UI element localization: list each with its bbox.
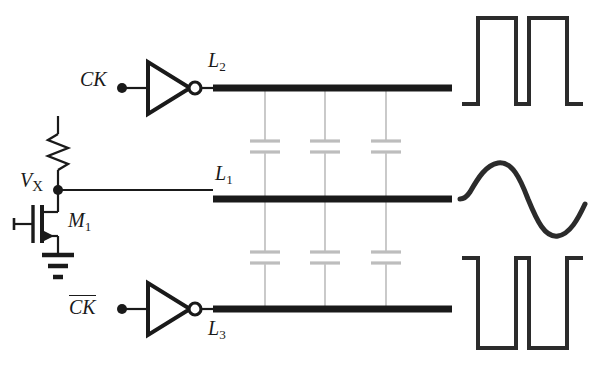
label-l1: L1	[215, 163, 233, 186]
waveform-square-top	[462, 18, 583, 104]
label-l3-sub: 3	[219, 327, 226, 342]
label-vx-sub: X	[32, 178, 43, 194]
label-l2-main: L	[208, 49, 219, 71]
figure-canvas: CK CK VX M1 L1 L2 L3	[0, 0, 593, 369]
waveform-sine-middle	[460, 163, 585, 236]
label-m1-main: M	[68, 209, 85, 231]
label-vx-main: V	[20, 169, 32, 191]
waveform-square-bottom	[462, 258, 583, 348]
label-vx: VX	[20, 170, 43, 194]
label-l2-sub: 2	[219, 59, 226, 74]
nmos-source-arrow	[42, 230, 54, 242]
inverter-top-bubble	[189, 82, 201, 94]
label-l1-main: L	[215, 162, 226, 184]
label-l1-sub: 1	[226, 172, 233, 187]
label-ck: CK	[80, 69, 107, 89]
label-l3-main: L	[208, 317, 219, 339]
pull-up-resistor	[48, 134, 68, 170]
bias-network	[14, 116, 213, 277]
inverter-top[interactable]	[117, 62, 213, 114]
label-m1: M1	[68, 210, 91, 233]
inverter-bottom-bubble	[189, 303, 201, 315]
inverter-bottom-triangle	[148, 283, 190, 335]
label-ck-bar-text: CK	[69, 295, 96, 317]
inverter-top-triangle	[148, 62, 190, 114]
label-l2: L2	[208, 50, 226, 73]
label-m1-sub: 1	[85, 219, 92, 234]
label-ck-bar: CK	[69, 295, 96, 317]
inverter-bottom[interactable]	[117, 283, 213, 335]
label-l3: L3	[208, 318, 226, 341]
transmission-lines	[213, 88, 452, 309]
